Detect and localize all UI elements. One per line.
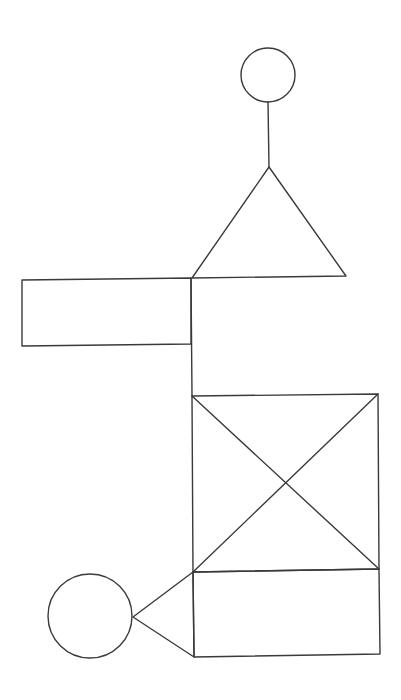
lower-box — [193, 569, 380, 657]
vertical-connector-line — [191, 278, 192, 396]
upper-triangle — [192, 167, 346, 278]
diagram-canvas — [0, 0, 401, 700]
bottom-left-circle — [48, 574, 132, 658]
side-triangle — [133, 572, 194, 657]
head-stem-line — [268, 102, 269, 167]
left-rectangle — [22, 278, 191, 346]
top-circle — [241, 48, 295, 102]
x-box-diagonal-2 — [193, 394, 378, 572]
shapes-layer — [22, 48, 380, 658]
